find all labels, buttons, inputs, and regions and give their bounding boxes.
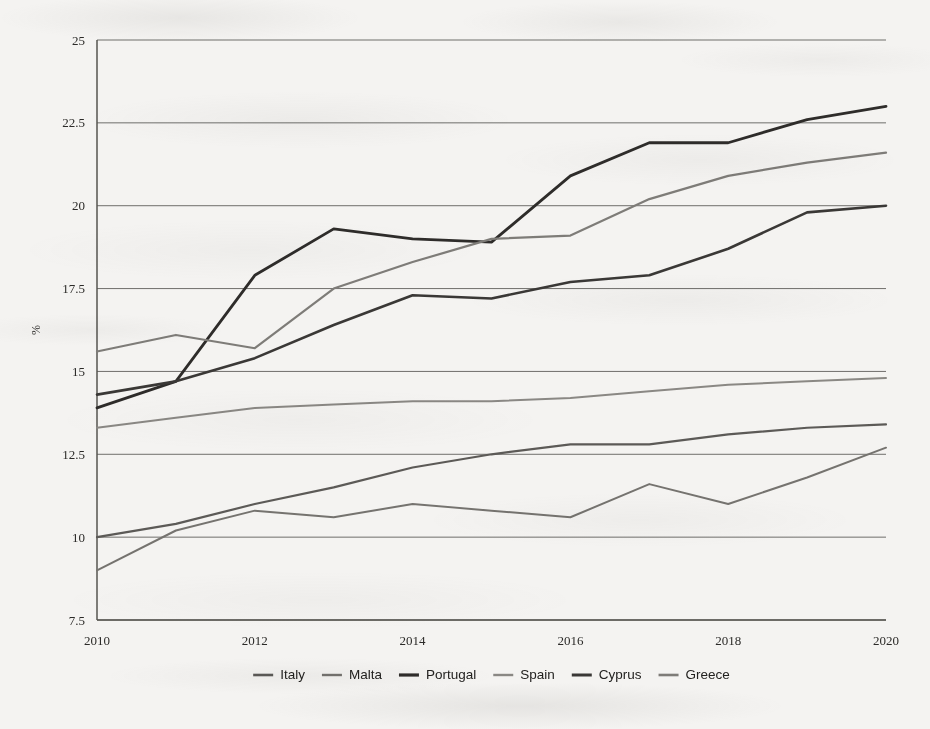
x-axis-tick-labels: 201020122014201620182020 [84,633,899,648]
y-axis-title: % [29,325,43,335]
series-line-group [97,106,886,570]
y-axis-tick-label: 17.5 [62,281,85,296]
y-axis-tick-label: 12.5 [62,447,85,462]
x-axis-tick-label: 2012 [242,633,268,648]
y-axis-tick-label: 7.5 [69,613,85,628]
series-line-malta [97,448,886,571]
legend-item-cyprus[interactable]: Cyprus [572,667,642,682]
x-axis-tick-label: 2018 [715,633,741,648]
series-line-portugal [97,106,886,408]
legend-item-greece[interactable]: Greece [659,667,730,682]
y-axis-tick-label: 22.5 [62,115,85,130]
chart-svg: 7.51012.51517.52022.525 2010201220142016… [0,0,930,729]
series-line-spain [97,378,886,428]
y-axis-tick-label: 20 [72,198,85,213]
y-axis-tick-label: 15 [72,364,85,379]
legend-item-italy[interactable]: Italy [253,667,305,682]
chart-legend: ItalyMaltaPortugalSpainCyprusGreece [253,667,730,682]
legend-label-spain: Spain [520,667,555,682]
legend-item-malta[interactable]: Malta [322,667,383,682]
series-line-greece [97,153,886,352]
x-axis-tick-label: 2016 [557,633,584,648]
legend-label-malta: Malta [349,667,383,682]
legend-label-cyprus: Cyprus [599,667,642,682]
y-axis-tick-label: 25 [72,33,85,48]
x-axis-tick-label: 2020 [873,633,899,648]
legend-label-greece: Greece [686,667,730,682]
x-axis-tick-label: 2010 [84,633,110,648]
y-axis-tick-label: 10 [72,530,85,545]
legend-item-portugal[interactable]: Portugal [399,667,476,682]
line-chart-figure: 7.51012.51517.52022.525 2010201220142016… [0,0,930,729]
legend-label-portugal: Portugal [426,667,476,682]
legend-label-italy: Italy [280,667,305,682]
series-line-cyprus [97,206,886,395]
x-axis-tick-label: 2014 [400,633,427,648]
legend-item-spain[interactable]: Spain [493,667,555,682]
y-axis-tick-labels: 7.51012.51517.52022.525 [62,33,85,628]
